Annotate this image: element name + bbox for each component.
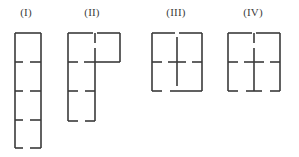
figure-label-3: (III)	[155, 6, 197, 18]
figure-label-4: (IV)	[232, 6, 274, 18]
figure-label-2: (II)	[72, 6, 112, 18]
figure-three-group	[152, 33, 202, 91]
figure-one-group	[15, 33, 41, 148]
figures-drawing	[0, 0, 299, 157]
figure-board: (I) (II) (III) (IV)	[0, 0, 299, 157]
figure-two-group	[68, 33, 120, 121]
figure-label-1: (I)	[6, 6, 46, 18]
figure-four-group	[228, 33, 280, 91]
